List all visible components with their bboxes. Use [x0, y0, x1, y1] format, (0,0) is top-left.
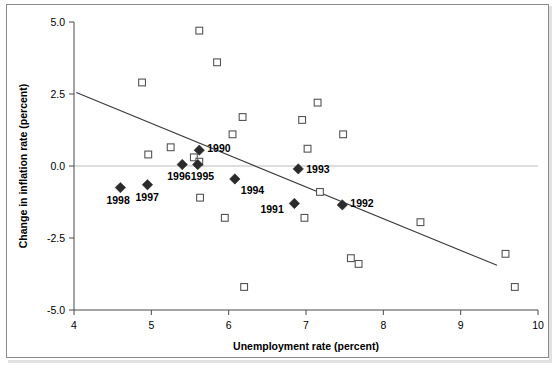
data-point-open-square: [317, 189, 324, 196]
data-point-open-square: [197, 194, 204, 201]
data-point-year-label: 1990: [207, 142, 231, 154]
data-point-year-label: 1992: [350, 197, 374, 209]
data-point-open-square: [304, 145, 311, 152]
data-point-open-square: [347, 255, 354, 262]
data-point-diamond: [142, 180, 152, 190]
data-point-year-label: 1997: [135, 191, 159, 203]
data-point-open-square: [314, 99, 321, 106]
data-point-diamond: [289, 198, 299, 208]
data-point-open-square: [145, 151, 152, 158]
data-point-open-square: [196, 27, 203, 34]
data-point-year-label: 1995: [191, 170, 215, 182]
chart-figure: 5.02.50.0-2.5-5.045678910Unemployment ra…: [0, 0, 557, 367]
data-point-diamond: [337, 200, 347, 210]
data-point-open-square: [214, 59, 221, 66]
data-point-year-label: 1991: [260, 203, 284, 215]
data-point-open-square: [340, 131, 347, 138]
y-tick-label: 2.5: [50, 88, 65, 100]
y-axis-title: Change in inflation rate (percent): [17, 84, 29, 249]
x-axis-title: Unemployment rate (percent): [233, 340, 379, 352]
x-tick-label: 7: [303, 319, 309, 331]
data-point-diamond: [293, 164, 303, 174]
data-point-open-square: [229, 131, 236, 138]
x-tick-label: 6: [226, 319, 232, 331]
x-tick-label: 5: [148, 319, 154, 331]
y-tick-label: 5.0: [50, 16, 65, 28]
x-tick-label: 8: [380, 319, 386, 331]
data-point-year-label: 1993: [306, 163, 330, 175]
data-point-open-square: [299, 117, 306, 124]
x-tick-label: 9: [458, 319, 464, 331]
data-point-open-square: [355, 261, 362, 268]
data-point-open-square: [241, 284, 248, 291]
data-point-year-label: 1994: [241, 184, 265, 196]
data-point-open-square: [511, 284, 518, 291]
regression-trendline: [76, 93, 497, 266]
y-tick-label: -5.0: [47, 304, 65, 316]
data-point-open-square: [167, 144, 174, 151]
y-tick-label: -2.5: [47, 232, 65, 244]
x-tick-label: 10: [532, 319, 544, 331]
data-point-diamond: [177, 159, 187, 169]
data-point-open-square: [139, 79, 146, 86]
data-point-open-square: [502, 250, 509, 257]
data-point-open-square: [239, 114, 246, 121]
data-point-year-label: 1998: [106, 194, 130, 206]
data-point-diamond: [115, 182, 125, 192]
scatter-plot: 5.02.50.0-2.5-5.045678910Unemployment ra…: [0, 0, 557, 367]
y-tick-label: 0.0: [50, 160, 65, 172]
data-point-open-square: [301, 214, 308, 221]
data-point-open-square: [417, 219, 424, 226]
data-point-year-label: 1996: [167, 170, 191, 182]
x-tick-label: 4: [71, 319, 77, 331]
data-point-diamond: [230, 174, 240, 184]
data-point-open-square: [221, 214, 228, 221]
